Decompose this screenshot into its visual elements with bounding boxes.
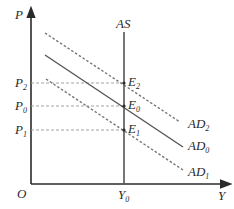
label-e1: E1 bbox=[127, 121, 140, 138]
label-e0: E0 bbox=[127, 97, 140, 114]
point-e1 bbox=[122, 128, 125, 131]
as-ad-diagram: P Y O P2 P0 P1 Y0 AS AD2 AD0 AD1 E2 E0 E… bbox=[0, 0, 234, 209]
point-e2 bbox=[122, 81, 125, 84]
label-p0: P0 bbox=[14, 98, 27, 115]
diagram-canvas: P Y O P2 P0 P1 Y0 AS AD2 AD0 AD1 E2 E0 E… bbox=[0, 0, 234, 209]
label-p2: P2 bbox=[14, 75, 27, 92]
origin-label: O bbox=[17, 186, 27, 201]
point-e0 bbox=[122, 104, 125, 107]
label-ad1: AD1 bbox=[187, 164, 209, 181]
x-axis-label: Y bbox=[218, 188, 227, 203]
curve-ad2 bbox=[45, 33, 180, 122]
y-axis-label: P bbox=[14, 7, 23, 22]
label-e2: E2 bbox=[127, 74, 140, 91]
curve-ad1 bbox=[46, 79, 183, 170]
label-ad0: AD0 bbox=[187, 138, 209, 155]
label-y0: Y0 bbox=[118, 187, 129, 204]
curve-ad0 bbox=[45, 55, 183, 147]
label-as: AS bbox=[115, 16, 131, 31]
label-ad2: AD2 bbox=[187, 116, 209, 133]
label-p1: P1 bbox=[14, 122, 27, 139]
